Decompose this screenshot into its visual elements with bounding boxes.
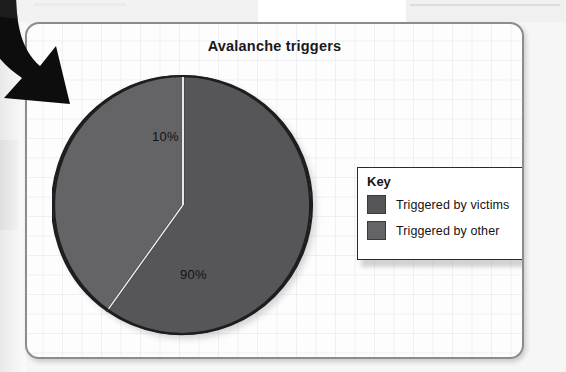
page-title: Avalanche triggers [27, 38, 522, 54]
pie-slice-label-victims: 90% [180, 267, 207, 282]
legend-swatch-triggered-by-other [367, 221, 386, 240]
legend-box: Key Triggered by victims Triggered by ot… [357, 167, 523, 260]
pie-chart: 10% 90% [52, 74, 314, 336]
pie-slice-label-other: 10% [152, 129, 179, 144]
legend-title: Key [367, 174, 391, 189]
page-top-rule-secondary [34, 3, 126, 6]
page-left-margin-shadow [0, 140, 18, 230]
legend-swatch-triggered-by-victims [367, 195, 386, 214]
chart-panel: Avalanche triggers 10% 90% Key Triggered… [25, 22, 524, 359]
pie-chart-svg [52, 74, 314, 336]
legend-item-triggered-by-other[interactable]: Triggered by other [367, 221, 499, 240]
legend-item-triggered-by-victims[interactable]: Triggered by victims [367, 195, 509, 214]
legend-label-triggered-by-victims: Triggered by victims [396, 198, 509, 212]
page-top-band-middle [258, 0, 406, 22]
page-top-rule [410, 4, 560, 6]
legend-label-triggered-by-other: Triggered by other [396, 224, 499, 238]
